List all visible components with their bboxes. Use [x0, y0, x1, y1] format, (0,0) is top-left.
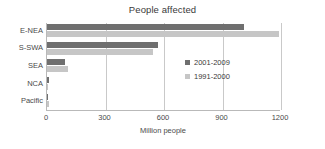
legend-label: 2001-2009 — [194, 58, 230, 67]
y-axis-label: S-SWA — [0, 43, 43, 52]
x-axis-tick: 900 — [215, 113, 228, 122]
bar — [47, 49, 153, 55]
bar — [47, 101, 49, 107]
plot-area — [46, 23, 280, 111]
bar-group — [47, 41, 280, 59]
bar — [47, 42, 158, 48]
bar — [47, 84, 48, 90]
bar — [47, 66, 68, 72]
legend-swatch-icon — [185, 74, 190, 79]
x-axis-tick: 300 — [98, 113, 111, 122]
legend: 2001-20091991-2000 — [185, 58, 230, 81]
y-axis-label: NCA — [0, 78, 43, 87]
bar — [47, 59, 65, 65]
chart-container: People affected E-NEAS-SWASEANCAPacific … — [0, 0, 325, 149]
bar — [47, 77, 49, 83]
bar-group — [47, 23, 280, 41]
y-axis-label: E-NEA — [0, 25, 43, 34]
chart-title: People affected — [0, 4, 325, 15]
x-axis-tick: 1200 — [272, 113, 289, 122]
legend-swatch-icon — [185, 60, 190, 65]
gridline — [281, 23, 282, 110]
x-axis-tick: 0 — [44, 113, 48, 122]
bar-group — [47, 58, 280, 76]
y-axis-category-labels: E-NEAS-SWASEANCAPacific — [0, 23, 43, 111]
x-axis-tick: 600 — [157, 113, 170, 122]
legend-label: 1991-2000 — [194, 72, 230, 81]
y-axis-label: SEA — [0, 61, 43, 70]
bar-group — [47, 93, 280, 111]
bar — [47, 24, 244, 30]
bar-groups — [47, 23, 280, 110]
y-axis-label: Pacific — [0, 96, 43, 105]
legend-item[interactable]: 2001-2009 — [185, 58, 230, 67]
x-axis-title: Million people — [46, 126, 280, 135]
bar — [47, 94, 48, 100]
x-axis-tick-labels: 03006009001200 — [46, 113, 280, 125]
bar — [47, 31, 279, 37]
legend-item[interactable]: 1991-2000 — [185, 72, 230, 81]
bar-group — [47, 76, 280, 94]
